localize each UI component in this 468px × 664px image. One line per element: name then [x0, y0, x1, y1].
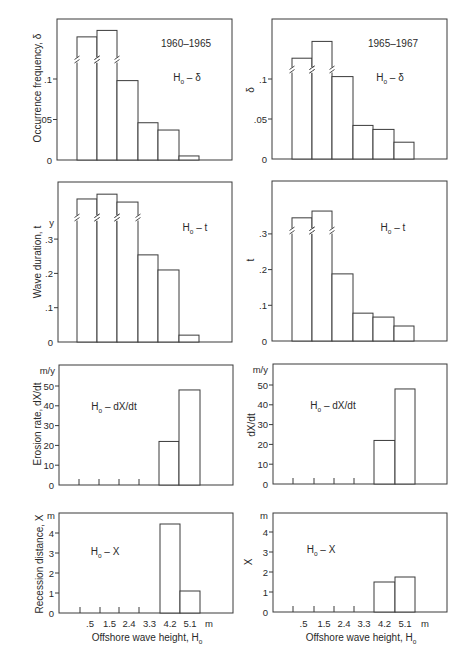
y-unit-label: y — [49, 217, 54, 228]
histogram-figure: 0.05.1Occurrence frequency, δ1960–1965Ho… — [0, 0, 468, 664]
histogram-bar — [138, 255, 158, 342]
x-axis-label: Offshore wave height, Ho — [306, 632, 417, 645]
x-tick-label: 1.5 — [317, 618, 330, 629]
histogram-bar — [97, 30, 117, 160]
relation-annotation: Ho – t — [381, 222, 406, 235]
histogram-bar — [179, 156, 199, 160]
x-axis-label-subscript: o — [413, 638, 417, 645]
histogram-bar — [117, 202, 138, 342]
x-tick-label: 3.3 — [143, 618, 156, 629]
chart-erosion-rate-1965-1967: 01020304050m/ydX/dtHo – dX/dt — [246, 364, 447, 490]
histogram-bar — [292, 218, 312, 341]
x-axis-label-subscript: o — [199, 638, 203, 645]
period-title: 1960–1965 — [161, 38, 211, 49]
y-tick-label: 0 — [49, 480, 54, 491]
histogram-bar — [353, 125, 373, 159]
relation-annotation: Ho – t — [183, 222, 208, 235]
y-tick-label: 2 — [49, 568, 54, 579]
y-tick-label: .2 — [45, 268, 53, 279]
plot-frame — [59, 365, 233, 485]
chart-wave-duration-1965-1967: 0.1.2.3tHo – t — [245, 181, 447, 347]
annotation-symbol: H — [91, 401, 98, 412]
histogram-bar — [77, 37, 97, 160]
y-tick-label: 4 — [49, 528, 54, 539]
annotation-relation: – δ — [184, 72, 201, 83]
histogram-bar — [312, 41, 332, 159]
y-tick-label: .3 — [45, 234, 53, 245]
histogram-bar — [158, 130, 179, 160]
chart-recession-distance-1960-1965: 01234mRecession distance, XHo – X.51.52.… — [34, 510, 233, 645]
histogram-bar — [373, 317, 394, 341]
plot-frame — [59, 513, 233, 613]
relation-annotation: Ho – dX/dt — [310, 400, 356, 413]
y-axis-label: Erosion rate, dX/dt — [32, 382, 43, 465]
histogram-bar — [394, 142, 414, 159]
histogram-bar — [97, 194, 117, 342]
annotation-relation: – dX/dt — [321, 400, 356, 411]
histogram-bar — [292, 58, 312, 159]
annotation-relation: – X — [318, 544, 336, 555]
x-tick-label: .5 — [86, 618, 94, 629]
y-tick-label: 40 — [257, 399, 268, 410]
histogram-bar — [395, 577, 415, 612]
histogram-bar — [353, 313, 373, 341]
y-tick-label: 30 — [257, 419, 268, 430]
annotation-symbol: H — [381, 222, 388, 233]
annotation-relation: – dX/dt — [102, 401, 137, 412]
histogram-bar — [159, 441, 179, 485]
annotation-relation: – t — [391, 222, 405, 233]
y-tick-label: .3 — [259, 228, 267, 239]
histogram-bar — [158, 270, 179, 342]
annotation-symbol: H — [91, 546, 98, 557]
x-tick-label: 2.4 — [337, 618, 350, 629]
histogram-bar — [160, 524, 180, 613]
histogram-bar — [374, 440, 395, 484]
y-axis-label: Wave duration, t — [32, 226, 43, 299]
histogram-bar — [312, 211, 332, 341]
y-tick-label: 30 — [43, 420, 54, 431]
y-tick-label: 20 — [257, 439, 268, 450]
x-axis-label-text: Offshore wave height, H — [306, 632, 413, 643]
x-unit-label: m — [205, 618, 213, 629]
y-unit-label: m/y — [40, 365, 56, 376]
histogram-bar — [138, 123, 158, 160]
period-title: 1965–1967 — [368, 38, 418, 49]
chart-erosion-rate-1960-1965: 01020304050m/yErosion rate, dX/dtHo – dX… — [32, 365, 233, 491]
histogram-bar — [332, 77, 353, 159]
y-axis-label: δ — [245, 87, 256, 93]
y-tick-label: .1 — [259, 74, 267, 85]
histogram-bar — [77, 199, 97, 342]
histogram-bar — [395, 389, 415, 484]
annotation-symbol: H — [376, 72, 383, 83]
y-axis-label: Recession distance, X — [34, 514, 45, 613]
annotation-relation: – t — [193, 222, 207, 233]
y-tick-label: 0 — [48, 337, 53, 348]
y-tick-label: 4 — [263, 527, 268, 538]
y-tick-label: 0 — [263, 607, 268, 618]
plot-frame — [273, 364, 447, 484]
x-axis-label-text: Offshore wave height, H — [92, 632, 199, 643]
y-tick-label: 50 — [257, 380, 268, 391]
y-tick-label: 20 — [43, 440, 54, 451]
y-tick-label: .1 — [45, 302, 53, 313]
y-tick-label: 1 — [49, 588, 54, 599]
histogram-bar — [373, 129, 394, 159]
y-tick-label: 2 — [263, 567, 268, 578]
annotation-symbol: H — [173, 72, 180, 83]
y-tick-label: .2 — [259, 264, 267, 275]
annotation-symbol: H — [307, 544, 314, 555]
annotation-symbol: H — [310, 400, 317, 411]
histogram-bar — [374, 582, 395, 612]
histogram-bar — [332, 274, 353, 341]
y-tick-label: 0 — [47, 155, 52, 166]
histogram-bar — [179, 335, 199, 342]
y-tick-label: 3 — [49, 548, 54, 559]
y-unit-label: m/y — [253, 364, 269, 375]
annotation-symbol: H — [183, 222, 190, 233]
x-tick-label: 2.4 — [122, 618, 135, 629]
relation-annotation: Ho – δ — [173, 72, 201, 85]
y-tick-label: .05 — [254, 114, 267, 125]
x-axis-label: Offshore wave height, Ho — [92, 632, 203, 645]
histogram-bar — [117, 81, 138, 160]
annotation-relation: – X — [102, 546, 120, 557]
